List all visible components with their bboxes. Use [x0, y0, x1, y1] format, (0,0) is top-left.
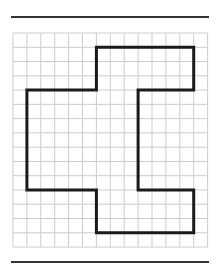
- bottom-rule: [11, 261, 209, 263]
- grid-lines: [13, 33, 208, 247]
- grid-diagram: [0, 0, 220, 273]
